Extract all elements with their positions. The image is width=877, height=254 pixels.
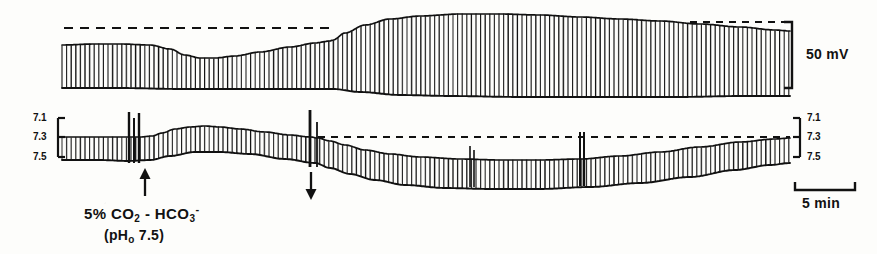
treatment-caption-prefix: 5% CO: [84, 205, 134, 222]
left-tick-label-7-3: 7.3: [33, 132, 46, 142]
right-tick-label-7-3: 7.3: [807, 132, 820, 142]
time-scale-bar: [795, 182, 855, 190]
treatment-arrows: [140, 168, 317, 200]
hco3-charge-superscript: -: [195, 203, 199, 215]
right-ph-axis: [793, 118, 800, 157]
vm-scale-bar: [784, 22, 792, 88]
time-scale-label: 5 min: [802, 196, 840, 210]
right-tick-label-7-1: 7.1: [807, 113, 820, 123]
ph-o-prefix: (pH: [104, 227, 128, 243]
right-tick-label-7-5: 7.5: [807, 152, 820, 162]
treatment-caption-line1: 5% CO2 - HCO3-: [84, 204, 199, 224]
vm-scale-label: 50 mV: [806, 47, 849, 61]
membrane-potential-spike-trace: [62, 14, 789, 98]
treatment-offset-arrow: [306, 172, 317, 200]
ph-o-value: 7.5): [135, 227, 165, 243]
treatment-onset-arrow: [140, 168, 151, 196]
treatment-caption-line2: (pHo 7.5): [104, 228, 164, 245]
figure-panel: 50 mV 5 min 7.1 7.3 7.5 7.1 7.3 7.5 5% C…: [0, 0, 877, 254]
treatment-caption-mid: - HCO: [140, 205, 189, 222]
left-tick-label-7-1: 7.1: [33, 113, 46, 123]
left-tick-label-7-5: 7.5: [33, 152, 46, 162]
